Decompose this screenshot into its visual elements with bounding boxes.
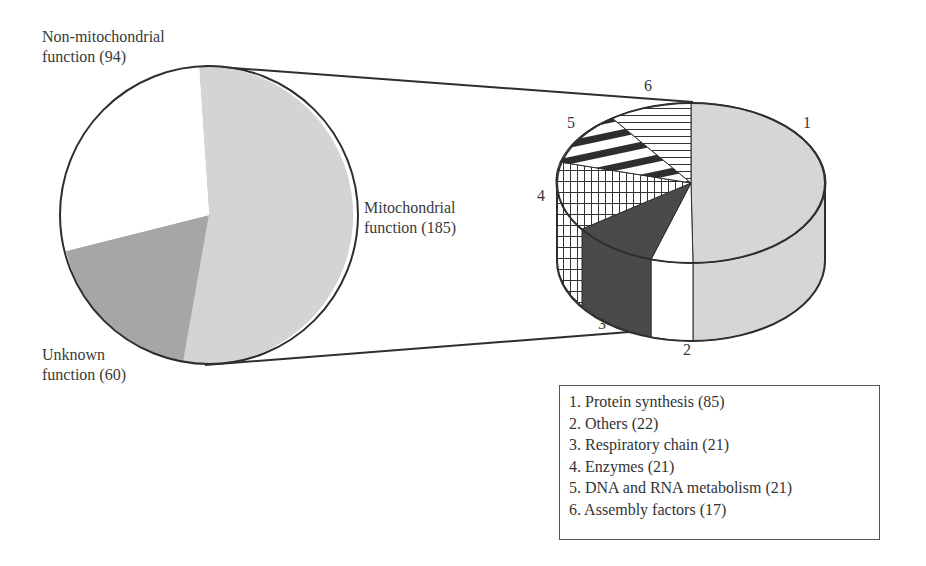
legend-item-respiratory-chain: 3. Respiratory chain (21)	[569, 434, 879, 456]
legend-item-assembly-factors: 6. Assembly factors (17)	[569, 499, 879, 521]
slice-number-5: 5	[567, 114, 575, 132]
label-non-mitochondrial: Non-mitochondrial function (94)	[42, 27, 165, 67]
label-line: function (185)	[364, 218, 456, 238]
slice-number-3: 3	[598, 315, 606, 333]
label-line: function (94)	[42, 47, 165, 67]
legend-box: 1. Protein synthesis (85) 2. Others (22)…	[559, 385, 880, 540]
slice-number-4: 4	[537, 187, 545, 205]
slice-number-1: 1	[803, 114, 811, 132]
label-line: Unknown	[42, 345, 126, 365]
side-others	[651, 260, 693, 342]
legend-item-protein-synthesis: 1. Protein synthesis (85)	[569, 391, 879, 413]
label-line: Non-mitochondrial	[42, 27, 165, 47]
detail-pie-3d	[556, 103, 826, 341]
label-unknown: Unknown function (60)	[42, 345, 126, 385]
main-pie	[60, 66, 358, 364]
label-line: function (60)	[42, 365, 126, 385]
legend-item-enzymes: 4. Enzymes (21)	[569, 456, 879, 478]
legend-item-others: 2. Others (22)	[569, 413, 879, 435]
legend-item-dna-rna-metabolism: 5. DNA and RNA metabolism (21)	[569, 477, 879, 499]
label-line: Mitochondrial	[364, 198, 456, 218]
label-mitochondrial: Mitochondrial function (185)	[364, 198, 456, 238]
slice-number-2: 2	[683, 341, 691, 359]
slice-number-6: 6	[644, 77, 652, 95]
